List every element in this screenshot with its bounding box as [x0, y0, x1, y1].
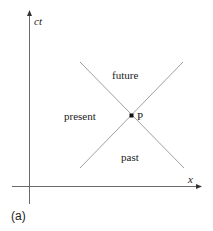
x-axis-label: x: [187, 173, 193, 185]
present-region-label: present: [64, 110, 96, 122]
future-region-label: future: [112, 69, 138, 81]
event-point-p: [130, 114, 134, 118]
event-label-p: P: [137, 110, 143, 122]
panel-label: (a): [11, 209, 26, 223]
past-region-label: past: [121, 151, 139, 163]
light-cone-diagram: ct x future present past P (a): [0, 0, 213, 231]
ct-axis-label: ct: [34, 15, 43, 27]
